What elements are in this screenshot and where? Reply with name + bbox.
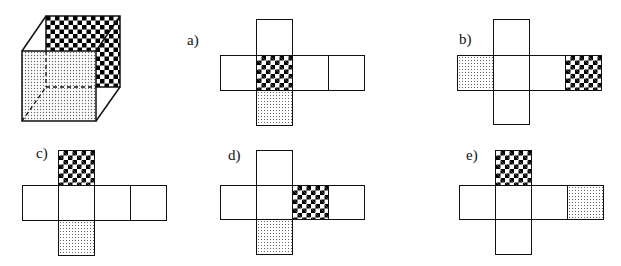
net-label-a: a)	[187, 33, 199, 48]
net-b-row-2-blank	[493, 55, 530, 91]
net-c-row-2-blank	[58, 185, 95, 221]
net-e-top-checker	[495, 150, 532, 186]
net-a-top-blank	[256, 19, 293, 56]
net-a-row-2-checker	[256, 55, 293, 91]
net-d-bottom-dotted	[256, 219, 293, 255]
net-a-row-3-blank	[292, 55, 329, 91]
net-d-row-2-blank	[256, 185, 293, 220]
net-c-row-1-blank	[22, 185, 59, 221]
net-b-row-1-dotted	[457, 55, 494, 91]
net-label-c: c)	[36, 146, 48, 161]
net-c-bottom-dotted	[58, 220, 95, 256]
net-e-row-3-blank	[531, 185, 568, 220]
net-d-top-blank	[256, 150, 293, 186]
net-b-bottom-blank	[493, 90, 530, 125]
net-e-row-1-blank	[459, 185, 496, 220]
net-a-row-1-blank	[220, 55, 257, 91]
net-c-row-3-blank	[94, 185, 131, 221]
net-d-row-3-checker	[292, 185, 329, 220]
net-c-top-checker	[58, 150, 95, 186]
net-a-bottom-dotted	[256, 90, 293, 126]
cube-front-face-dotted	[22, 51, 96, 121]
net-label-b: b)	[459, 32, 472, 47]
net-b-row-3-blank	[529, 55, 566, 91]
net-d-row-1-blank	[220, 185, 257, 220]
net-label-d: d)	[228, 148, 241, 163]
cube-drawing	[0, 0, 130, 130]
net-c-row-4-blank	[130, 185, 167, 221]
net-e-bottom-blank	[495, 219, 532, 255]
net-e-row-4-dotted	[567, 185, 604, 220]
net-b-row-4-checker	[565, 55, 602, 91]
net-b-top-blank	[493, 19, 530, 56]
net-label-e: e)	[466, 148, 478, 163]
net-d-row-4-blank	[328, 185, 365, 220]
net-e-row-2-blank	[495, 185, 532, 220]
net-a-row-4-blank	[328, 55, 365, 91]
